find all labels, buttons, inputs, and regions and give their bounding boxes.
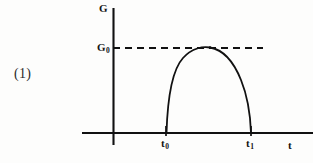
x-tick-label-t0: t0 — [161, 137, 168, 149]
y-tick-label-g0-subscript: 0 — [106, 46, 110, 55]
x-tick-label-t0-subscript: 0 — [165, 142, 169, 151]
plot-area — [0, 0, 313, 163]
y-tick-label-g0-base: G — [97, 41, 106, 53]
curve-peak-marker-icon — [209, 46, 212, 49]
x-tick-label-t1: t1 — [246, 137, 253, 149]
plot-svg — [0, 0, 313, 163]
y-axis-name-label: G — [99, 2, 108, 14]
x-axis-name-label: t — [288, 139, 292, 151]
figure-screenshot: (1) G G0 t0 t1 t — [0, 0, 313, 163]
curve-g-of-t — [167, 47, 252, 133]
y-tick-label-g0: G0 — [97, 41, 109, 53]
x-tick-label-t1-subscript: 1 — [250, 142, 254, 151]
